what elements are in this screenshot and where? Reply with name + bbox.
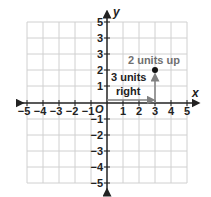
annotation-right-line1: 3 units: [111, 71, 146, 83]
svg-text:2: 2: [97, 64, 103, 76]
svg-text:5: 5: [184, 105, 190, 117]
x-tick-labels: −5 −4 −3 −2 −1 1 2 3 4 5: [18, 105, 190, 117]
svg-text:3: 3: [97, 48, 103, 60]
svg-text:3: 3: [152, 105, 158, 117]
coordinate-plane: y x O −5 −4 −3 −2 −1 1 2 3 4 5 5 3 3 2 1…: [0, 0, 211, 197]
annotation-up: 2 units up: [128, 54, 180, 66]
svg-text:5: 5: [97, 16, 103, 28]
svg-text:1: 1: [120, 105, 126, 117]
annotation-right-line2: right: [116, 85, 141, 97]
svg-text:−5: −5: [18, 105, 31, 117]
svg-text:−2: −2: [66, 105, 79, 117]
x-axis-label: x: [191, 86, 200, 100]
svg-text:−2: −2: [90, 129, 103, 141]
svg-text:3: 3: [97, 32, 103, 44]
svg-text:−4: −4: [34, 105, 47, 117]
point-3-2: [152, 67, 158, 73]
svg-text:1: 1: [97, 80, 103, 92]
svg-text:−4: −4: [90, 161, 103, 173]
svg-text:4: 4: [168, 105, 175, 117]
svg-text:−5: −5: [90, 177, 103, 189]
svg-text:2: 2: [136, 105, 142, 117]
y-axis-label: y: [112, 5, 121, 19]
svg-text:−3: −3: [50, 105, 63, 117]
coordinate-plane-diagram: y x O −5 −4 −3 −2 −1 1 2 3 4 5 5 3 3 2 1…: [0, 0, 211, 197]
svg-text:−1: −1: [90, 113, 103, 125]
svg-text:−3: −3: [90, 145, 103, 157]
